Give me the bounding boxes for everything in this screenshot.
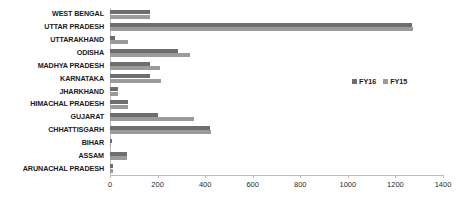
bar-fy15 — [110, 92, 118, 96]
x-tick-label: 800 — [294, 180, 307, 189]
bar-fy15 — [110, 27, 413, 31]
x-tick-label: 1000 — [340, 180, 357, 189]
bar-fy16 — [110, 23, 412, 27]
category-label: JHARKHAND — [0, 88, 104, 96]
category-label: CHHATTISGARH — [0, 126, 104, 134]
bar-fy16 — [110, 113, 158, 117]
category-label: GUJARAT — [0, 113, 104, 121]
x-tick-mark — [158, 175, 159, 178]
chart-legend: FY16FY15 — [352, 77, 407, 86]
category-label: UTTARAKHAND — [0, 36, 104, 44]
bar-fy15 — [110, 143, 111, 147]
category-axis-labels: WEST BENGALUTTAR PRADESHUTTARAKHANDODISH… — [0, 8, 104, 175]
bar-fy15 — [110, 79, 161, 83]
legend-label: FY16 — [359, 77, 376, 86]
bar-fy16 — [110, 36, 115, 40]
legend-item-fy15[interactable]: FY15 — [383, 77, 407, 86]
plot-area — [110, 8, 443, 175]
bar-fy16 — [110, 87, 118, 91]
x-tick-mark — [253, 175, 254, 178]
x-tick-mark — [205, 175, 206, 178]
legend-label: FY15 — [390, 77, 407, 86]
bar-fy16 — [110, 10, 150, 14]
bar-fy15 — [110, 105, 128, 109]
bar-fy15 — [110, 169, 113, 173]
bar-chart: WEST BENGALUTTAR PRADESHUTTARAKHANDODISH… — [0, 0, 469, 212]
x-tick-label: 1400 — [435, 180, 452, 189]
category-label: HIMACHAL PRADESH — [0, 100, 104, 108]
x-tick-label: 0 — [108, 180, 112, 189]
category-label: ODISHA — [0, 49, 104, 57]
category-label: ASSAM — [0, 152, 104, 160]
bar-fy15 — [110, 130, 211, 134]
x-tick-mark — [443, 175, 444, 178]
bar-fy16 — [110, 74, 150, 78]
bar-fy16 — [110, 139, 112, 143]
bar-fy16 — [110, 62, 150, 66]
bar-fy16 — [110, 152, 127, 156]
legend-item-fy16[interactable]: FY16 — [352, 77, 376, 86]
bar-fy15 — [110, 117, 194, 121]
bar-fy15 — [110, 66, 160, 70]
bar-fy15 — [110, 40, 128, 44]
category-label: WEST BENGAL — [0, 10, 104, 18]
category-axis-line — [110, 175, 444, 176]
x-tick-mark — [395, 175, 396, 178]
category-label: KARNATAKA — [0, 75, 104, 83]
category-label: UTTAR PRADESH — [0, 23, 104, 31]
bar-fy16 — [110, 126, 210, 130]
category-label: BIHAR — [0, 139, 104, 147]
x-tick-label: 400 — [199, 180, 212, 189]
category-label: MADHYA PRADESH — [0, 62, 104, 70]
legend-swatch-icon — [352, 79, 357, 84]
bar-fy16 — [110, 49, 178, 53]
bar-fy15 — [110, 15, 150, 19]
bar-fy15 — [110, 53, 190, 57]
x-tick-mark — [300, 175, 301, 178]
x-tick-label: 200 — [151, 180, 164, 189]
bar-fy16 — [110, 164, 113, 168]
bar-fy15 — [110, 156, 127, 160]
category-label: ARUNACHAL PRADESH — [0, 165, 104, 173]
x-tick-label: 600 — [246, 180, 259, 189]
bar-fy16 — [110, 100, 128, 104]
x-tick-mark — [110, 175, 111, 178]
legend-swatch-icon — [383, 79, 388, 84]
x-tick-label: 1200 — [387, 180, 404, 189]
x-tick-mark — [348, 175, 349, 178]
